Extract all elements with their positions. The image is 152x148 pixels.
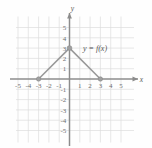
function-label: y = f(x) — [82, 44, 107, 53]
y-tick-label: 2 — [63, 55, 67, 63]
x-tick-label: -4 — [25, 82, 31, 90]
graph-figure: -5 -4 -3 -2 -1 1 2 3 4 5 5 4 3 2 1 -1 -2… — [0, 0, 152, 148]
x-tick-label: 5 — [119, 82, 123, 90]
y-axis-label: y — [70, 4, 75, 13]
y-tick-label: -5 — [60, 127, 66, 135]
x-tick-label: 1 — [78, 82, 82, 90]
x-tick-label: 4 — [109, 82, 113, 90]
y-tick-label: -1 — [60, 86, 66, 94]
x-axis-label: x — [139, 75, 144, 84]
x-tick-label: -3 — [36, 82, 42, 90]
vertex-point — [67, 46, 72, 51]
endpoint-right — [98, 77, 102, 81]
endpoint-left — [36, 77, 40, 81]
y-tick-label: 5 — [63, 24, 67, 32]
x-tick-label: 3 — [99, 82, 103, 90]
x-tick-label: -2 — [46, 82, 52, 90]
y-tick-label: 4 — [63, 35, 67, 43]
y-tick-label: -3 — [60, 107, 66, 115]
y-tick-label: 1 — [63, 65, 67, 73]
x-tick-label: 2 — [88, 82, 92, 90]
y-tick-label: -4 — [60, 117, 66, 125]
y-tick-label: 3 — [63, 45, 67, 53]
x-tick-label: -5 — [15, 82, 21, 90]
x-axis — [10, 77, 138, 82]
graph-canvas: -5 -4 -3 -2 -1 1 2 3 4 5 5 4 3 2 1 -1 -2… — [0, 0, 152, 148]
y-tick-label: -2 — [60, 96, 66, 104]
